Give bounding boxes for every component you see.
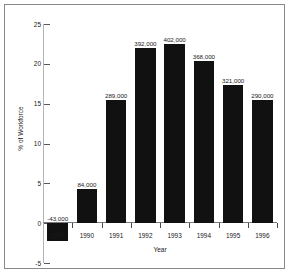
y-axis-tick-label: -5 [21, 260, 41, 267]
bar [106, 100, 126, 223]
y-axis-tick [44, 104, 50, 105]
y-axis-tick-label: 5 [21, 180, 41, 187]
x-axis-category-label: 1993 [160, 232, 189, 240]
bar [135, 48, 155, 223]
y-axis-tick [44, 64, 50, 65]
x-axis-title: Year [43, 246, 277, 253]
x-axis-category-label: 1989 [43, 232, 72, 240]
y-axis-tick [44, 183, 50, 184]
x-axis-tick [160, 223, 161, 228]
chart-frame: 2520151050-5 % of Workforce -43,00084,00… [4, 4, 285, 269]
bar-value-label: 289,000 [94, 92, 139, 99]
bar-value-label: 402,000 [152, 36, 197, 43]
bar-chart-plot-area: 2520151050-5 % of Workforce -43,00084,00… [5, 5, 286, 270]
x-axis-category-label: 1990 [72, 232, 101, 240]
bar-value-label: 368,000 [181, 53, 226, 60]
bar-value-label: 321,000 [211, 77, 256, 84]
y-axis-tick [44, 263, 50, 264]
x-axis-category-label: 1995 [219, 232, 248, 240]
bar [223, 85, 243, 223]
x-axis-tick [219, 223, 220, 228]
x-axis-tick [131, 223, 132, 228]
x-axis-category-label: 1991 [102, 232, 131, 240]
y-axis-tick [44, 144, 50, 145]
y-axis-title: % of Workforce [17, 94, 24, 164]
x-axis-tick [102, 223, 103, 228]
x-axis-category-label: 1996 [248, 232, 277, 240]
bar [252, 100, 272, 223]
y-axis-tick-label: 10 [21, 140, 41, 147]
x-axis-tick [189, 223, 190, 228]
y-axis-tick-label: 20 [21, 60, 41, 67]
x-axis-category-label: 1992 [131, 232, 160, 240]
bar [194, 61, 214, 224]
bar [77, 189, 97, 223]
x-axis-tick [72, 223, 73, 228]
bar-value-label: -43,000 [35, 215, 80, 222]
y-axis-tick-label: 15 [21, 100, 41, 107]
x-axis-category-label: 1994 [189, 232, 218, 240]
y-axis-tick [44, 24, 50, 25]
bar-value-label: 84,000 [64, 181, 109, 188]
bar-value-label: 290,000 [240, 92, 285, 99]
y-axis-tick-label: 25 [21, 21, 41, 28]
x-axis-tick [248, 223, 249, 228]
x-axis-tick [277, 223, 278, 228]
bar [164, 44, 184, 223]
